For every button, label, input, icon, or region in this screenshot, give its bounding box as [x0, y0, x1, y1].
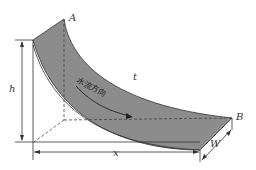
h-arrow-down-icon: [20, 135, 24, 141]
w-arrow-lower-icon: [202, 154, 207, 160]
w-arrow-upper-icon: [226, 130, 231, 136]
x-arrow-left-icon: [34, 150, 40, 154]
label-a: A: [69, 13, 76, 23]
h-arrow-up-icon: [20, 41, 24, 47]
label-t: t: [133, 72, 137, 82]
water-surface: [33, 19, 232, 150]
dashed-base-diagonal: [34, 120, 64, 142]
diagram-canvas: A B t h x W 水流方向: [0, 0, 256, 170]
label-b: B: [236, 112, 243, 122]
label-w: W: [210, 139, 220, 149]
label-x: x: [113, 148, 119, 158]
label-h: h: [9, 84, 15, 94]
x-arrow-right-icon: [193, 150, 199, 154]
